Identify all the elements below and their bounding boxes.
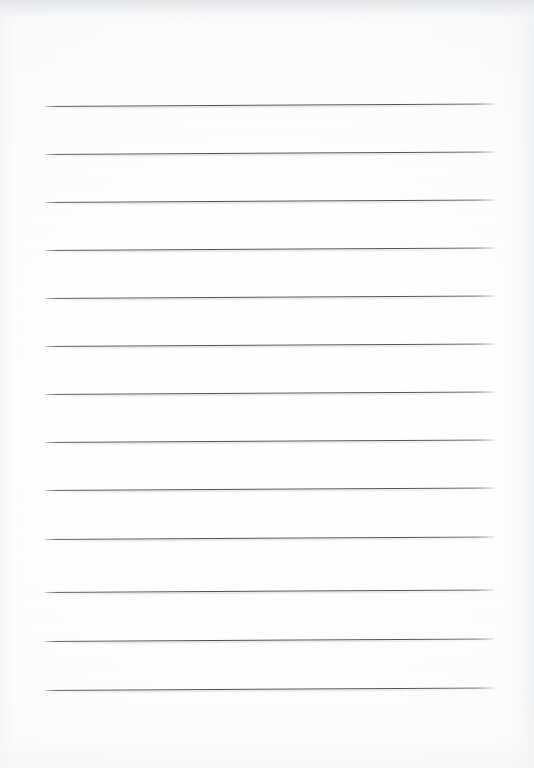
- ruled-line: [44, 638, 494, 642]
- ruled-line: [44, 247, 494, 251]
- ruled-line: [44, 487, 494, 491]
- ruled-line: [44, 199, 494, 203]
- scanned-page: [0, 0, 534, 768]
- ruled-line: [44, 536, 494, 540]
- ruled-line: [44, 589, 494, 593]
- ruled-line: [44, 103, 494, 107]
- ruled-line: [44, 439, 494, 443]
- ruled-lines-group: [0, 0, 534, 768]
- ruled-line: [44, 687, 494, 691]
- ruled-line: [44, 343, 494, 347]
- ruled-line: [44, 151, 494, 155]
- ruled-line: [44, 295, 494, 299]
- ruled-line: [44, 391, 494, 395]
